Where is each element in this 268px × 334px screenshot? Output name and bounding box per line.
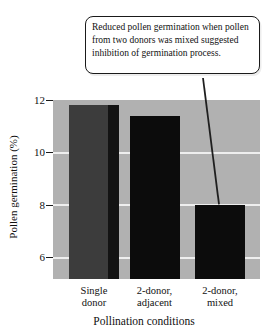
y-tick-label-8: 8 <box>19 199 45 212</box>
x-category-line: mixed <box>184 297 256 309</box>
bar-2-donor-adjacent <box>130 116 180 279</box>
x-category-line: adjacent <box>119 297 191 309</box>
annotation-callout: Reduced pollen germination when pollen f… <box>85 16 260 74</box>
y-tick-label-12: 12 <box>19 94 45 107</box>
y-tick-12 <box>46 100 53 101</box>
bar-single-donor <box>69 105 119 279</box>
y-tick-6 <box>46 257 53 258</box>
bar-2-donor-mixed <box>195 205 245 279</box>
y-tick-10 <box>46 152 53 153</box>
y-tick-label-6: 6 <box>19 251 45 264</box>
y-tick-8 <box>46 205 53 206</box>
x-axis-title: Pollination conditions <box>93 315 194 327</box>
x-category-label-2: 2-donor,adjacent <box>119 285 191 309</box>
y-axis-title: Pollen germination (%) <box>7 135 19 238</box>
x-category-label-3: 2-donor,mixed <box>184 285 256 309</box>
x-category-line: 2-donor, <box>184 285 256 297</box>
y-tick-label-10: 10 <box>19 146 45 159</box>
x-category-line: 2-donor, <box>119 285 191 297</box>
pollen-germination-bar-chart: Reduced pollen germination when pollen f… <box>0 0 268 334</box>
